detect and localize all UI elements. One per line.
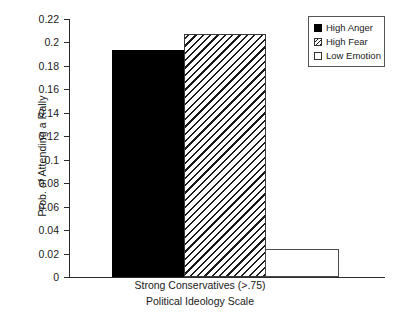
bar-chart: Prob. of Attending a Rally 00.020.040.06… [0, 0, 400, 313]
y-axis-tick-label: 0.2 [44, 37, 59, 47]
y-axis-tick-label: 0.14 [39, 108, 59, 118]
legend-item-high-anger: High Anger [314, 21, 380, 34]
y-axis-tick-label: 0.16 [39, 84, 59, 94]
y-axis-tick-label: 0.22 [39, 14, 59, 24]
x-axis-title: Political Ideology Scale [0, 295, 400, 307]
bar-high-fear [184, 34, 266, 277]
legend-label: Low Emotion [326, 51, 381, 61]
legend-label: High Fear [326, 37, 368, 47]
legend-swatch-hatch-icon [314, 38, 322, 46]
x-axis-line [69, 277, 385, 278]
y-axis-tick-label: 0.02 [39, 249, 59, 259]
y-axis-tick-label: 0.18 [39, 61, 59, 71]
y-axis-tick-label: 0.1 [44, 155, 59, 165]
y-axis-tick [64, 277, 69, 278]
y-axis-tick-label: 0.06 [39, 202, 59, 212]
chart-legend: High Anger High Fear Low Emotion [308, 16, 385, 67]
y-axis-tick-label: 0.04 [39, 225, 59, 235]
x-axis-tick-label: Strong Conservatives (>.75) [0, 279, 400, 291]
bar-high-anger [112, 50, 185, 278]
legend-label: High Anger [326, 23, 373, 33]
y-axis-tick-label: 0.08 [39, 178, 59, 188]
legend-swatch-solid-icon [314, 24, 322, 32]
legend-item-low-emotion: Low Emotion [314, 49, 380, 62]
legend-swatch-open-icon [314, 52, 322, 60]
bar-low-emotion [265, 249, 339, 277]
y-axis-tick-label: 0.12 [39, 131, 59, 141]
legend-item-high-fear: High Fear [314, 35, 380, 48]
